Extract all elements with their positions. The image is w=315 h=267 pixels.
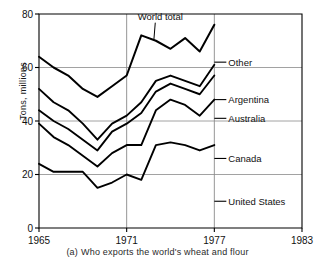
x-tick-label: 1977 <box>203 235 226 246</box>
annotation-world-total: World total <box>138 11 183 22</box>
series-label-united-states: United States <box>228 196 285 207</box>
series-label-argentina: Argentina <box>228 94 269 105</box>
y-tick-label: 40 <box>22 116 34 127</box>
y-tick-label: 60 <box>22 62 34 73</box>
caption-text: Who exports the world's wheat and flour <box>81 247 249 257</box>
figure-caption: (a)Who exports the world's wheat and flo… <box>0 247 315 257</box>
y-tick-label: 0 <box>27 223 33 234</box>
x-tick-label: 1971 <box>116 235 139 246</box>
x-tick-label: 1965 <box>28 235 51 246</box>
y-axis-ticks: 020406080 <box>22 9 39 234</box>
caption-index: (a) <box>66 247 78 257</box>
series-labels: United StatesCanadaAustraliaArgentinaOth… <box>214 57 285 207</box>
y-tick-label: 20 <box>22 169 34 180</box>
series-label-canada: Canada <box>228 153 262 164</box>
figure-container: Tons, millions 1965197119771983 02040608… <box>0 0 315 267</box>
series-label-other: Other <box>228 57 252 68</box>
line-chart: 1965197119771983 020406080 United States… <box>0 0 315 267</box>
x-tick-label: 1983 <box>291 235 314 246</box>
series-label-australia: Australia <box>228 113 266 124</box>
y-tick-label: 80 <box>22 9 34 20</box>
x-axis-ticks: 1965197119771983 <box>28 228 314 246</box>
chart-annotations: World total <box>138 11 183 39</box>
annotation-pointer-line <box>154 23 155 40</box>
